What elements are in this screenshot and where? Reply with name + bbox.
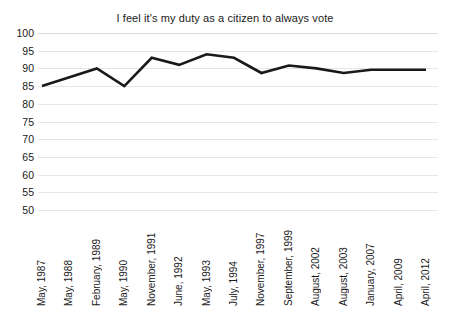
gridline (38, 210, 438, 211)
line-chart: I feel it's my duty as a citizen to alwa… (0, 0, 450, 311)
series-polyline (42, 54, 426, 86)
x-axis-tick-label: January, 2007 (366, 212, 376, 306)
y-axis-tick-label: 65 (0, 152, 34, 163)
x-axis-tick-label: May, 1990 (119, 212, 129, 306)
y-axis-tick-label: 90 (0, 63, 34, 74)
x-axis-tick-label: August, 2002 (311, 212, 321, 306)
y-axis-tick-label: 100 (0, 28, 34, 39)
x-axis-tick-label: November, 1991 (147, 212, 157, 306)
x-axis-tick-label: September, 1999 (284, 212, 294, 306)
x-axis-tick-label: May, 1987 (37, 212, 47, 306)
x-axis-tick-label: April, 2012 (421, 212, 431, 306)
x-axis-tick-label: July, 1994 (229, 212, 239, 306)
y-axis: 10095908580757065605550 (0, 33, 34, 210)
x-axis-tick-label: November, 1997 (256, 212, 266, 306)
plot-area (38, 33, 438, 210)
y-axis-tick-label: 60 (0, 169, 34, 180)
y-axis-tick-label: 75 (0, 116, 34, 127)
y-axis-tick-label: 70 (0, 134, 34, 145)
x-axis: May, 1987May, 1988February, 1989May, 199… (38, 212, 438, 308)
x-axis-tick-label: April, 2009 (394, 212, 404, 306)
x-axis-tick-label: May, 1993 (202, 212, 212, 306)
y-axis-tick-label: 80 (0, 99, 34, 110)
y-axis-tick-label: 55 (0, 187, 34, 198)
x-axis-tick-label: May, 1988 (64, 212, 74, 306)
chart-title: I feel it's my duty as a citizen to alwa… (0, 12, 450, 24)
x-axis-tick-label: August, 2003 (339, 212, 349, 306)
y-axis-tick-label: 95 (0, 45, 34, 56)
y-axis-tick-label: 85 (0, 81, 34, 92)
x-axis-tick-label: June, 1992 (174, 212, 184, 306)
x-axis-tick-label: February, 1989 (92, 212, 102, 306)
y-axis-tick-label: 50 (0, 205, 34, 216)
series-line (38, 33, 438, 210)
